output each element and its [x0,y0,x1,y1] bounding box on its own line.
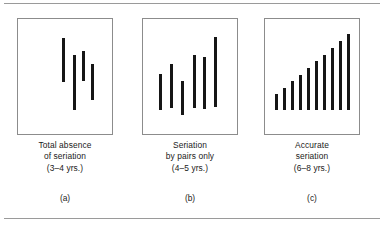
panel-b-stick-area [143,19,237,134]
panel-b [142,18,238,135]
stick [299,75,302,110]
stick [193,55,196,108]
stick [291,81,294,110]
panel-label-b: (b) [130,192,250,204]
stick [283,88,286,110]
caption-a-line-3: (3–4 yrs.) [5,163,125,174]
caption-panel-c: Accurate seriation (6–8 yrs.) [252,140,372,174]
panel-c [264,18,360,135]
caption-b-line-1: Seriation [130,140,250,151]
panels-container [0,18,384,136]
stick [315,61,318,110]
stick [214,37,217,107]
caption-a-line-2: of seriation [5,151,125,162]
stick [73,55,76,110]
caption-b-line-2: by pairs only [130,151,250,162]
caption-c-line-3: (6–8 yrs.) [252,163,372,174]
top-divider-rule [4,3,380,4]
panel-label-a: (a) [5,192,125,204]
stick [307,68,310,110]
caption-b-line-3: (4–5 yrs.) [130,163,250,174]
captions-container: Total absence of seriation (3–4 yrs.) Se… [0,140,384,182]
stick [275,94,278,110]
stick [339,41,342,110]
stick [82,51,85,81]
panel-labels-container: (a) (b) (c) [0,192,384,208]
caption-c-line-1: Accurate [252,140,372,151]
bottom-divider-rule [4,218,380,219]
stick [181,81,184,115]
caption-a-line-1: Total absence [5,140,125,151]
stick [331,48,334,110]
stick [91,64,94,100]
caption-panel-a: Total absence of seriation (3–4 yrs.) [5,140,125,174]
panel-a [17,18,113,135]
stick [347,34,350,110]
figure-root: Total absence of seriation (3–4 yrs.) Se… [0,0,384,225]
stick [159,74,162,110]
stick [170,64,173,108]
panel-c-stick-area [265,19,359,134]
stick [323,55,326,110]
panel-label-c: (c) [252,192,372,204]
caption-c-line-2: seriation [252,151,372,162]
stick [62,38,65,82]
panel-a-stick-area [18,19,112,134]
caption-panel-b: Seriation by pairs only (4–5 yrs.) [130,140,250,174]
stick [203,57,206,109]
